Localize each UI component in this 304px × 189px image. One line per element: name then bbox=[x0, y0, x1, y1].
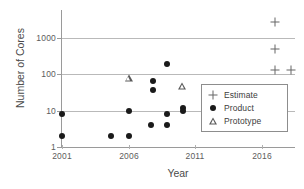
x-tick-label: 2006 bbox=[109, 152, 149, 161]
chart-legend: Estimate Product Prototype bbox=[201, 84, 288, 132]
y-tick-mark bbox=[57, 38, 62, 39]
data-point-estimate bbox=[271, 45, 280, 54]
data-point-product bbox=[148, 122, 154, 128]
data-point-estimate bbox=[271, 66, 280, 75]
x-axis-line bbox=[61, 147, 295, 148]
data-point-product bbox=[150, 78, 156, 84]
x-tick-label: 2016 bbox=[242, 152, 282, 161]
scatter-chart: 1101001000 2001200620112016 Number of Co… bbox=[0, 0, 304, 189]
data-point-product bbox=[180, 108, 186, 114]
open-triangle-icon bbox=[208, 115, 219, 126]
legend-item-estimate[interactable]: Estimate bbox=[202, 88, 287, 101]
x-tick-mark bbox=[62, 145, 63, 149]
filled-circle-icon bbox=[208, 102, 219, 113]
x-tick-mark bbox=[195, 145, 196, 149]
x-tick-mark bbox=[262, 145, 263, 149]
plus-icon bbox=[208, 89, 219, 100]
data-point-product bbox=[164, 122, 170, 128]
legend-label-prototype: Prototype bbox=[224, 116, 261, 126]
data-point-estimate bbox=[287, 66, 296, 75]
data-point-estimate bbox=[271, 17, 280, 26]
x-tick-mark bbox=[129, 145, 130, 149]
legend-label-product: Product bbox=[224, 103, 254, 113]
y-tick-mark bbox=[57, 74, 62, 75]
data-point-product bbox=[164, 111, 170, 117]
x-axis-title: Year bbox=[61, 167, 295, 179]
y-axis-line bbox=[61, 10, 62, 148]
x-tick-label: 2001 bbox=[42, 152, 82, 161]
gridline-y bbox=[61, 38, 295, 39]
data-point-product bbox=[108, 133, 114, 139]
data-point-product bbox=[126, 133, 132, 139]
data-point-product bbox=[59, 111, 65, 117]
data-point-product bbox=[164, 61, 170, 67]
legend-label-estimate: Estimate bbox=[224, 90, 258, 100]
x-tick-label: 2011 bbox=[175, 152, 215, 161]
data-point-product bbox=[126, 108, 132, 114]
gridline-y bbox=[61, 74, 295, 75]
y-tick-label: 1 bbox=[16, 143, 56, 152]
data-point-product bbox=[59, 133, 65, 139]
data-point-product bbox=[150, 87, 156, 93]
data-point-prototype bbox=[178, 82, 186, 89]
y-axis-title: Number of Cores bbox=[14, 8, 26, 128]
data-point-prototype bbox=[125, 74, 133, 81]
legend-item-prototype[interactable]: Prototype bbox=[202, 114, 287, 127]
legend-item-product[interactable]: Product bbox=[202, 101, 287, 114]
